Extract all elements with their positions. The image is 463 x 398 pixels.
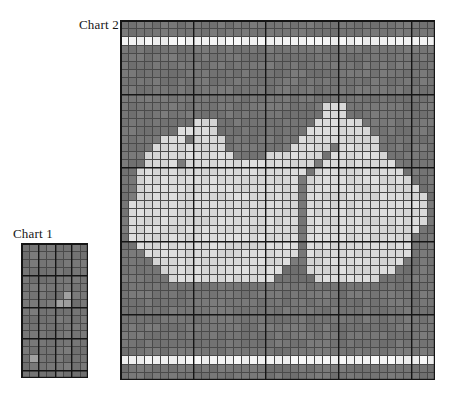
chart2-title: Chart 2 (79, 18, 119, 32)
chart2-grid-panel[interactable] (120, 20, 435, 380)
chart1-grid-panel[interactable] (21, 243, 88, 378)
chart1-heatmap-canvas[interactable] (21, 243, 88, 378)
chart1-title: Chart 1 (13, 227, 53, 241)
chart2-heatmap-canvas[interactable] (120, 20, 435, 380)
figure-root: Chart 2 Chart 1 (0, 0, 463, 398)
